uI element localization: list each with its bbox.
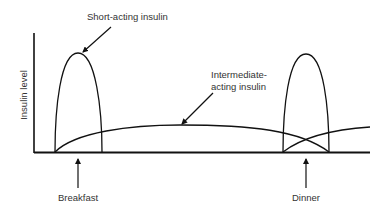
intermediate-acting-curve-2 <box>283 127 370 152</box>
short-acting-arrow <box>83 27 111 52</box>
intermediate-label-line1: Intermediate- <box>211 69 267 80</box>
dinner-label: Dinner <box>292 192 320 203</box>
intermediate-arrow <box>182 93 213 124</box>
y-axis-label: Insulin level <box>18 70 29 120</box>
short-acting-label: Short-acting insulin <box>87 11 168 22</box>
short-acting-curve-dinner <box>283 54 329 152</box>
short-acting-curve-breakfast <box>55 53 102 152</box>
breakfast-label: Breakfast <box>58 192 98 203</box>
insulin-diagram: Insulin level Short-acting insulin Inter… <box>0 0 390 216</box>
intermediate-label-line2: acting insulin <box>211 81 266 92</box>
